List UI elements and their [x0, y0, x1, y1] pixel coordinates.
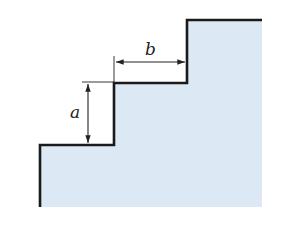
rise-label: a [70, 102, 80, 122]
run-label: b [145, 39, 156, 59]
staircase-diagram: a b [0, 0, 281, 227]
